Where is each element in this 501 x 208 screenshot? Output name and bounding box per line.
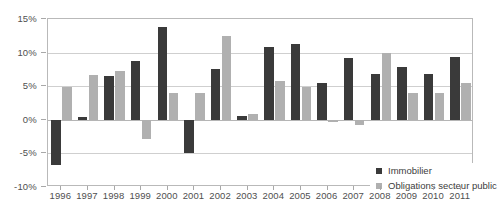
bar xyxy=(78,117,88,120)
y-tick-label: 5% xyxy=(23,80,37,91)
bar xyxy=(89,75,99,119)
bar xyxy=(248,114,258,120)
bar xyxy=(424,74,434,120)
bar-group xyxy=(314,19,341,185)
bar xyxy=(382,53,392,120)
x-tick-label: 1998 xyxy=(103,190,125,201)
bar xyxy=(317,83,327,120)
bar-group xyxy=(181,19,208,185)
bar xyxy=(275,81,285,120)
bar xyxy=(158,27,168,120)
y-tick-mark xyxy=(41,18,46,19)
bar-group xyxy=(208,19,235,185)
bar xyxy=(195,93,205,120)
bar xyxy=(51,120,61,165)
y-tick-label: -5% xyxy=(20,147,38,158)
bar-group xyxy=(155,19,182,185)
x-tick-label: 2010 xyxy=(422,190,444,201)
y-tick-mark xyxy=(41,52,46,53)
bar xyxy=(408,93,418,120)
bar-group xyxy=(288,19,315,185)
bar-group xyxy=(341,19,368,185)
y-axis-labels: 15%10%5%0%-5%-10% xyxy=(0,18,44,186)
bar xyxy=(104,76,114,120)
bar-group xyxy=(75,19,102,185)
bar xyxy=(264,47,274,120)
bar xyxy=(371,74,381,120)
y-tick-mark xyxy=(41,186,46,187)
bar-group xyxy=(261,19,288,185)
bar xyxy=(222,36,232,120)
bar-group xyxy=(234,19,261,185)
plot-area: Immobilier Obligations secteur public xyxy=(47,18,473,186)
bar-group xyxy=(447,19,474,185)
bar xyxy=(461,83,471,120)
x-tick-label: 2005 xyxy=(289,190,311,201)
y-tick-label: -10% xyxy=(14,181,37,192)
bar xyxy=(450,57,460,120)
x-tick-label: 1997 xyxy=(76,190,98,201)
x-tick-label: 2007 xyxy=(342,190,364,201)
bar xyxy=(115,71,125,119)
legend-swatch-icon xyxy=(376,168,382,174)
y-tick-mark xyxy=(41,152,46,153)
x-tick-label: 2000 xyxy=(156,190,178,201)
y-tick-mark xyxy=(41,119,46,120)
bar xyxy=(344,58,354,120)
x-axis-labels: 1996199719981999200020012002200320042005… xyxy=(47,190,473,208)
x-tick-label: 1999 xyxy=(129,190,151,201)
x-tick-label: 2008 xyxy=(369,190,391,201)
x-tick-label: 2011 xyxy=(449,190,470,201)
bar xyxy=(302,87,312,120)
bar xyxy=(237,116,247,120)
legend-label: Immobilier xyxy=(388,165,432,176)
x-tick-label: 2009 xyxy=(396,190,418,201)
bar xyxy=(328,120,338,123)
bar-group xyxy=(48,19,75,185)
x-tick-label: 2003 xyxy=(236,190,258,201)
bar xyxy=(184,120,194,153)
bar xyxy=(435,93,445,120)
bar-group xyxy=(394,19,421,185)
y-tick-label: 15% xyxy=(17,13,37,24)
bar-group xyxy=(421,19,448,185)
y-tick-label: 0% xyxy=(23,113,37,124)
bar xyxy=(355,120,365,125)
x-tick-label: 2001 xyxy=(183,190,205,201)
y-tick-mark xyxy=(41,85,46,86)
x-tick-label: 2002 xyxy=(209,190,231,201)
legend-item-immobilier: Immobilier xyxy=(376,165,432,176)
bar-group xyxy=(101,19,128,185)
y-tick-label: 10% xyxy=(17,46,37,57)
bar xyxy=(291,44,301,120)
x-tick-label: 2004 xyxy=(263,190,285,201)
bar xyxy=(169,93,179,120)
bars-layer xyxy=(48,19,472,185)
bar xyxy=(397,67,407,119)
bar xyxy=(211,69,221,119)
bar-group xyxy=(128,19,155,185)
x-tick-label: 2006 xyxy=(316,190,338,201)
x-tick-label: 1996 xyxy=(50,190,72,201)
bar-group xyxy=(368,19,395,185)
bar xyxy=(62,87,72,120)
bar xyxy=(142,120,152,139)
bar xyxy=(131,61,141,119)
